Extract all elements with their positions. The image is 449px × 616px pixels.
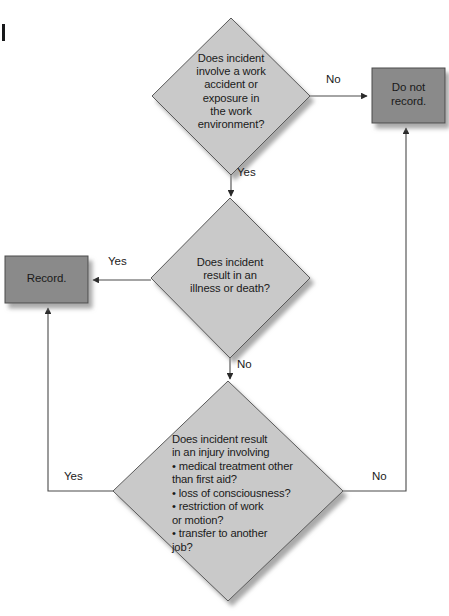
decision-2-shape — [151, 198, 310, 358]
edge-label-d3-yes: Yes — [64, 470, 83, 482]
edge-label-d1-no: No — [326, 73, 341, 85]
edge-d3-no — [343, 128, 406, 491]
edge-label-d1-yes: Yes — [237, 166, 256, 178]
decision-3-label: Does incident result in an injury involv… — [172, 433, 350, 554]
edge-label-d2-no: No — [237, 358, 252, 370]
terminal-record-shape — [5, 256, 88, 303]
flowchart-canvas: Does incident involve a work accident or… — [0, 0, 449, 616]
edge-label-d2-yes: Yes — [108, 255, 127, 267]
page-margin-mark — [2, 24, 5, 41]
edge-label-d3-no: No — [372, 470, 387, 482]
decision-1-shape — [152, 18, 310, 175]
terminal-do-not-record-shape — [372, 68, 445, 123]
edge-d3-yes — [48, 308, 113, 491]
